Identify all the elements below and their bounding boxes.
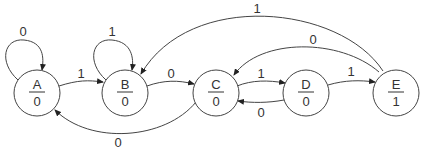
state-output: 0 [302, 94, 309, 109]
state-A: A 0 [14, 70, 60, 116]
diagram-svg: 0 1 1 0 0 1 0 1 0 1 [0, 0, 422, 151]
state-diagram: 0 1 1 0 0 1 0 1 0 1 [0, 0, 422, 151]
edge-label: 0 [257, 105, 264, 120]
transition-E-C: 0 [234, 32, 379, 75]
state-E: E 1 [373, 70, 419, 116]
edge-label: 1 [253, 1, 260, 16]
state-name: A [33, 77, 42, 92]
state-name: D [301, 77, 310, 92]
transition-D-C: 0 [238, 100, 284, 120]
transition-A-B: 1 [59, 66, 103, 86]
state-output: 0 [121, 94, 128, 109]
state-B: B 0 [102, 70, 148, 116]
transition-D-E: 1 [328, 64, 375, 85]
transition-B-C: 0 [147, 66, 194, 86]
edge-label: 0 [114, 135, 121, 150]
edge-label: 1 [108, 24, 115, 39]
state-name: B [121, 77, 130, 92]
edge-label: 1 [77, 66, 84, 81]
transition-C-D: 1 [237, 66, 285, 86]
edge-label: 1 [257, 66, 264, 81]
state-output: 1 [392, 94, 399, 109]
state-name: E [392, 77, 401, 92]
edge-label: 0 [19, 24, 26, 39]
state-output: 0 [33, 94, 40, 109]
state-name: C [211, 77, 220, 92]
state-D: D 0 [283, 70, 329, 116]
state-output: 0 [212, 94, 219, 109]
edge-label: 1 [347, 64, 354, 79]
edge-label: 0 [309, 32, 316, 47]
state-C: C 0 [193, 70, 239, 116]
edge-label: 0 [167, 66, 174, 81]
